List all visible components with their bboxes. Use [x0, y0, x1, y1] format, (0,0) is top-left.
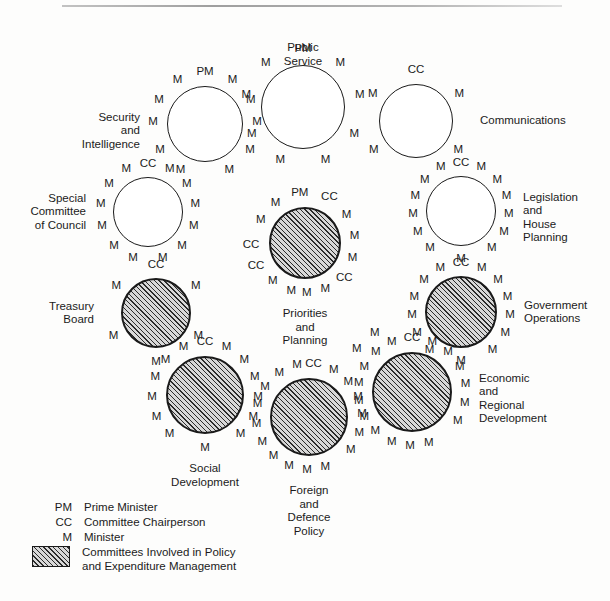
role-marker-m: M: [342, 209, 352, 221]
role-marker-m: M: [148, 116, 158, 128]
committee-label-government-operations: Government Operations: [524, 299, 587, 326]
role-marker-cc: CC: [404, 332, 421, 344]
role-marker-cc: CC: [453, 157, 470, 169]
role-marker-m: M: [261, 57, 271, 69]
role-marker-m: M: [329, 364, 339, 376]
role-marker-m: M: [104, 178, 114, 190]
legend-description: Committees Involved in Policy and Expend…: [82, 545, 236, 573]
role-marker-cc: CC: [197, 336, 214, 348]
committee-circle-priorities-and-planning: [269, 207, 341, 279]
legend-row: CCCommittee Chairperson: [32, 515, 312, 529]
role-marker-m: M: [346, 444, 356, 456]
role-marker-m: M: [150, 371, 160, 383]
role-marker-m: M: [461, 379, 471, 391]
role-marker-m: M: [176, 164, 186, 176]
role-marker-m: M: [335, 57, 345, 69]
role-marker-m: M: [501, 327, 511, 339]
role-marker-m: M: [350, 230, 360, 242]
role-marker-m: M: [368, 88, 378, 100]
role-marker-cc: CC: [408, 64, 425, 76]
role-marker-m: M: [344, 376, 354, 388]
role-marker-m: M: [191, 280, 201, 292]
role-marker-m: M: [182, 178, 192, 190]
role-marker-m: M: [256, 214, 266, 226]
committee-label-priorities-and-planning: Priorities and Planning: [283, 307, 328, 348]
legend-key: CC: [32, 515, 84, 529]
role-marker-m: M: [252, 116, 262, 128]
role-marker-m: M: [284, 460, 294, 472]
role-marker-m: M: [111, 280, 121, 292]
committee-circle-communications: [379, 84, 453, 158]
role-marker-m: M: [179, 341, 189, 353]
role-marker-m: M: [455, 361, 465, 373]
committee-label-social-development: Social Development: [171, 462, 239, 489]
committee-label-economic-and-regional-development: Economic and Regional Development: [479, 372, 547, 426]
legend-description: Committee Chairperson: [84, 515, 205, 529]
role-marker-pm: PM: [196, 66, 213, 78]
role-marker-m: M: [504, 209, 514, 221]
role-marker-cc: CC: [305, 358, 322, 370]
role-marker-m: M: [151, 356, 161, 368]
role-marker-m: M: [424, 438, 434, 450]
role-marker-m: M: [352, 343, 362, 355]
role-marker-m: M: [407, 309, 417, 321]
role-marker-m: M: [487, 242, 497, 254]
role-marker-m: M: [436, 162, 446, 174]
role-marker-m: M: [413, 226, 423, 238]
role-marker-m: M: [152, 411, 162, 423]
top-rule-divider: [62, 5, 562, 7]
role-marker-m: M: [200, 442, 210, 454]
committee-circle-legislation-and-house-planning: [426, 176, 496, 246]
role-marker-m: M: [109, 330, 119, 342]
role-marker-m: M: [268, 276, 278, 288]
role-marker-m: M: [155, 144, 165, 156]
role-marker-m: M: [154, 94, 164, 106]
role-marker-m: M: [499, 226, 509, 238]
role-marker-m: M: [109, 240, 119, 252]
role-marker-m: M: [405, 440, 415, 452]
role-marker-m: M: [302, 287, 312, 299]
role-marker-m: M: [503, 291, 513, 303]
role-marker-m: M: [354, 396, 364, 408]
committee-circle-social-development: [166, 356, 244, 434]
role-marker-m: M: [492, 174, 502, 186]
role-marker-m: M: [165, 429, 175, 441]
diagram-page: PMMMMMMMMMPublic ServicePMMMMMMMMMMMSecu…: [0, 0, 610, 601]
role-marker-cc: CC: [243, 239, 260, 251]
role-marker-m: M: [355, 428, 365, 440]
role-marker-m: M: [253, 398, 263, 410]
role-marker-m: M: [387, 436, 397, 448]
legend-row: PMPrime Minister: [32, 500, 312, 514]
role-marker-m: M: [225, 164, 235, 176]
role-marker-m: M: [369, 144, 379, 156]
role-marker-m: M: [121, 163, 131, 175]
committee-label-security-and-intelligence: Security and Intelligence: [82, 111, 140, 152]
committee-circle-treasury-board: [121, 278, 191, 348]
role-marker-m: M: [190, 198, 200, 210]
role-marker-pm: PM: [291, 188, 308, 200]
role-marker-m: M: [275, 367, 285, 379]
role-marker-m: M: [286, 285, 296, 297]
role-marker-m: M: [321, 283, 331, 295]
role-marker-m: M: [354, 377, 364, 389]
role-marker-m: M: [257, 436, 267, 448]
role-marker-m: M: [252, 419, 262, 431]
committee-circle-special-committee-of-council: [113, 177, 183, 247]
role-marker-m: M: [245, 144, 255, 156]
role-marker-m: M: [453, 415, 463, 427]
role-marker-m: M: [247, 128, 257, 140]
committee-label-communications: Communications: [480, 114, 566, 128]
role-marker-m: M: [419, 274, 429, 286]
role-marker-m: M: [493, 274, 503, 286]
role-marker-m: M: [269, 451, 279, 463]
role-marker-m: M: [370, 327, 380, 339]
role-marker-m: M: [355, 89, 365, 101]
role-marker-m: M: [236, 429, 246, 441]
role-marker-m: M: [173, 74, 183, 86]
role-marker-cc: CC: [148, 259, 165, 271]
role-marker-m: M: [276, 155, 286, 167]
role-marker-m: M: [348, 253, 358, 265]
role-marker-m: M: [360, 412, 370, 424]
role-marker-m: M: [371, 346, 381, 358]
role-marker-m: M: [189, 220, 199, 232]
